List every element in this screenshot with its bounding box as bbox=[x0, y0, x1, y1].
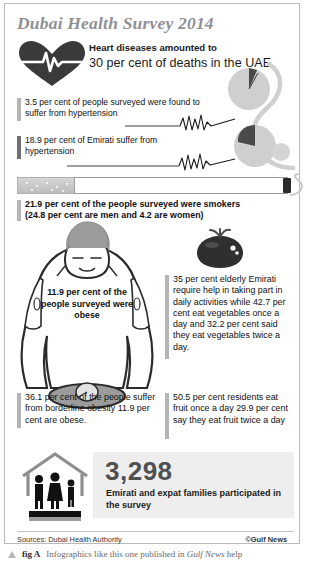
infographic-card: Dubai Health Survey 2014 Heart diseases … bbox=[4, 3, 300, 544]
stat-smokers-line1: 21.9 per cent of the people surveyed wer… bbox=[25, 199, 293, 210]
sources-label: Sources: Dubai Health Authority bbox=[17, 535, 122, 544]
families-section: 3,298 Emirati and expat families partici… bbox=[17, 448, 294, 526]
house-family-icon bbox=[19, 450, 91, 522]
copyright-label: ©Gulf News bbox=[245, 535, 287, 544]
page-title: Dubai Health Survey 2014 bbox=[17, 13, 214, 34]
accent-bar-3 bbox=[17, 200, 21, 221]
cigarette-icon bbox=[17, 177, 294, 194]
accent-bar-6 bbox=[165, 393, 169, 439]
figure-caption-text: Infographics like this one published in bbox=[46, 549, 186, 559]
smokers-women: 4.2 are women) bbox=[137, 210, 204, 220]
triangle-marker-icon bbox=[8, 551, 16, 558]
figure-caption-source: Gulf News bbox=[187, 549, 225, 559]
cigarette-body bbox=[74, 177, 288, 194]
figure-caption: fig AInfographics like this one publishe… bbox=[8, 549, 308, 564]
accent-bar-4 bbox=[165, 275, 169, 359]
figure-caption-tail: help bbox=[225, 549, 243, 559]
families-count: 3,298 bbox=[105, 456, 173, 487]
stat-obese-center: 11.9 per cent of the people surveyed wer… bbox=[41, 287, 133, 322]
stat-fruit: 50.5 per cent residents eat fruit once a… bbox=[173, 392, 295, 426]
figure-label: fig A bbox=[22, 549, 40, 559]
smokers-men: (24.8 per cent are men bbox=[25, 210, 121, 220]
families-caption: Emirati and expat families participated … bbox=[106, 488, 291, 511]
accent-bar-1 bbox=[17, 98, 21, 121]
eggplant-icon bbox=[193, 226, 247, 270]
stat-elderly: 35 per cent elderly Emirati require help… bbox=[173, 274, 293, 353]
ecg-squiggle-2 bbox=[67, 150, 247, 172]
smoke-icon bbox=[287, 173, 309, 199]
accent-bar-2 bbox=[17, 136, 21, 159]
ecg-squiggle-1 bbox=[125, 112, 245, 134]
infographic-page: Dubai Health Survey 2014 Heart diseases … bbox=[0, 0, 310, 564]
heart-ecg-icon bbox=[17, 40, 87, 88]
accent-bar-5 bbox=[17, 393, 21, 428]
cigarette-filter bbox=[17, 177, 75, 194]
heart-line-1: Heart diseases amounted to bbox=[89, 42, 289, 54]
footer-divider bbox=[17, 531, 294, 532]
stat-borderline-obesity: 36.1 per cent of the people suffer from … bbox=[25, 392, 163, 426]
smokers-and: and bbox=[121, 210, 137, 220]
